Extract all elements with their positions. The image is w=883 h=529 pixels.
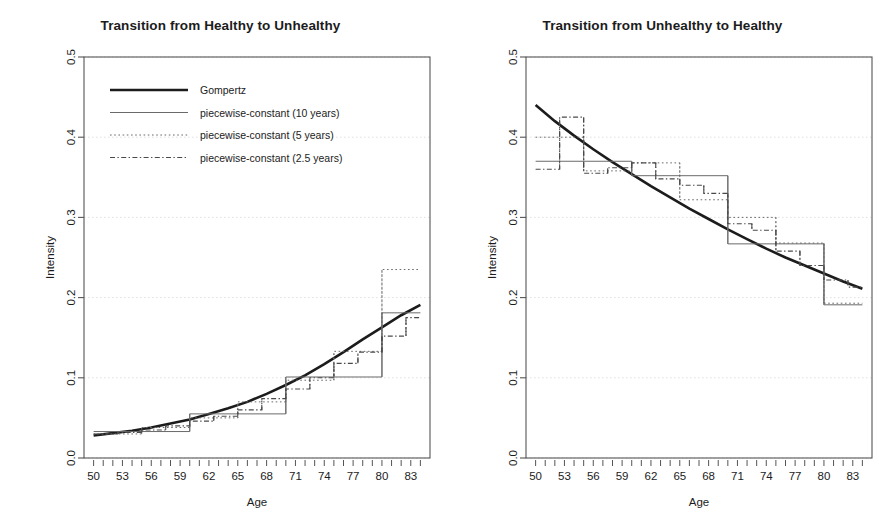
x-tick-label: 59: [174, 470, 187, 482]
series-solid-thin: [94, 313, 421, 432]
x-tick-label: 83: [404, 470, 417, 482]
x-tick-label: 62: [645, 470, 658, 482]
series-solid-thick: [94, 305, 421, 436]
plot-area-right: 0.00.10.20.30.40.55053565962656871747780…: [442, 0, 883, 529]
y-tick-label: 0.2: [507, 290, 519, 306]
legend-label: Gompertz: [200, 84, 246, 96]
y-tick-label: 0.2: [65, 290, 77, 306]
x-tick-label: 59: [616, 470, 629, 482]
y-tick-label: 0.5: [65, 49, 77, 65]
x-tick-label: 74: [760, 470, 773, 482]
legend-label: piecewise-constant (5 years): [200, 129, 334, 141]
y-tick-label: 0.0: [507, 450, 519, 466]
x-tick-label: 62: [203, 470, 216, 482]
y-tick-label: 0.0: [65, 450, 77, 466]
x-tick-label: 74: [318, 470, 331, 482]
y-tick-label: 0.3: [507, 209, 519, 225]
panel-healthy-to-unhealthy: Transition from Healthy to Unhealthy 0.0…: [0, 0, 441, 529]
x-axis-title: Age: [247, 496, 267, 508]
y-tick-label: 0.5: [507, 49, 519, 65]
y-tick-label: 0.4: [507, 129, 519, 146]
x-tick-label: 80: [818, 470, 831, 482]
legend-label: piecewise-constant (2.5 years): [200, 152, 342, 164]
y-tick-label: 0.4: [65, 129, 77, 146]
x-tick-label: 77: [347, 470, 360, 482]
figure-root: Transition from Healthy to Unhealthy 0.0…: [0, 0, 883, 529]
y-axis-title: Intensity: [44, 236, 56, 279]
x-tick-label: 56: [587, 470, 600, 482]
series-solid-thin: [536, 161, 863, 305]
x-tick-label: 65: [673, 470, 686, 482]
x-tick-label: 80: [376, 470, 389, 482]
series-dotted: [536, 137, 863, 303]
legend-label: piecewise-constant (10 years): [200, 107, 339, 119]
x-tick-label: 77: [789, 470, 802, 482]
x-tick-label: 50: [529, 470, 542, 482]
plot-area-left: 0.00.10.20.30.40.55053565962656871747780…: [0, 0, 441, 529]
x-tick-label: 68: [260, 470, 273, 482]
x-tick-label: 53: [558, 470, 571, 482]
x-tick-label: 83: [846, 470, 859, 482]
y-tick-label: 0.3: [65, 209, 77, 225]
x-tick-label: 71: [289, 470, 302, 482]
y-axis-title: Intensity: [486, 236, 498, 279]
y-tick-label: 0.1: [65, 370, 77, 386]
x-tick-label: 56: [145, 470, 158, 482]
legend: Gompertzpiecewise-constant (10 years)pie…: [110, 84, 342, 164]
x-tick-label: 68: [702, 470, 715, 482]
x-tick-label: 65: [231, 470, 244, 482]
y-tick-label: 0.1: [507, 370, 519, 386]
series-solid-thick: [536, 105, 863, 289]
panel-unhealthy-to-healthy: Transition from Unhealthy to Healthy 0.0…: [442, 0, 883, 529]
x-tick-label: 50: [87, 470, 100, 482]
x-tick-label: 71: [731, 470, 744, 482]
x-tick-label: 53: [116, 470, 129, 482]
x-axis-title: Age: [689, 496, 709, 508]
